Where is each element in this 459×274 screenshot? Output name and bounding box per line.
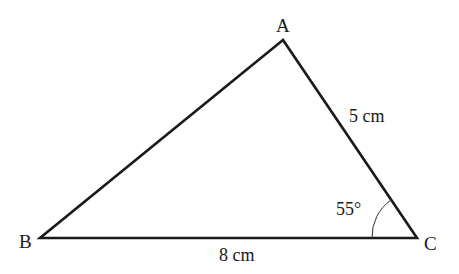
angle-label-c: 55° [336, 200, 361, 218]
side-label-ac: 5 cm [349, 107, 385, 125]
triangle-figure [0, 0, 459, 274]
vertex-label-a: A [276, 16, 290, 35]
vertex-label-c: C [424, 234, 437, 253]
side-label-bc: 8 cm [219, 246, 255, 264]
angle-arc-c [372, 200, 391, 238]
triangle-diagram: A B C 5 cm 8 cm 55° [0, 0, 459, 274]
vertex-label-b: B [19, 232, 32, 251]
